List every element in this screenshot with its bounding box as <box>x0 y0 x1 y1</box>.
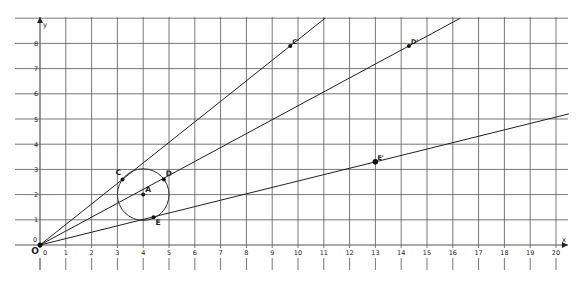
x-tick-label: 4 <box>141 249 145 257</box>
x-tick-label: 13 <box>371 249 379 257</box>
x-tick-label: 1 <box>64 249 68 257</box>
y-tick-label: 7 <box>34 65 38 73</box>
y-tick-label: 5 <box>34 116 38 124</box>
x-tick-label: 16 <box>449 249 457 257</box>
y-tick-label: 1 <box>34 216 38 224</box>
x-tick-label: 3 <box>115 249 119 257</box>
x-tick-label: 12 <box>345 249 353 257</box>
x-axis-label: x <box>562 236 566 244</box>
x-tick-label: 7 <box>219 249 223 257</box>
y-tick-label: 2 <box>34 191 38 199</box>
y-tick-label: 6 <box>34 90 38 98</box>
x-tick-label: 6 <box>193 249 197 257</box>
point-label: A <box>145 185 151 194</box>
line-OD <box>40 18 460 245</box>
x-tick-label: 14 <box>397 249 405 257</box>
x-tick-label: 18 <box>500 249 508 257</box>
x-tick-label: 15 <box>423 249 431 257</box>
origin-label: O <box>31 246 39 256</box>
y-tick-label: 8 <box>34 40 38 48</box>
line-OC <box>40 18 325 245</box>
x-tick-label: 17 <box>474 249 482 257</box>
x-tick-label: 20 <box>552 249 560 257</box>
x-tick-label: 8 <box>244 249 248 257</box>
line-OE <box>40 114 569 245</box>
point-label: E' <box>377 154 383 162</box>
y-tick-label: 0 <box>33 236 37 244</box>
tick-label-band <box>15 248 568 258</box>
point-label: D <box>166 169 172 178</box>
x-tick-label: 19 <box>526 249 534 257</box>
x-tick-label: 2 <box>90 249 94 257</box>
y-tick-label: 4 <box>34 141 38 149</box>
coordinate-diagram: 0123456789101112131415161718192001234567… <box>0 0 585 282</box>
point-label: D' <box>411 38 418 46</box>
point-label: C' <box>292 38 299 46</box>
y-label-band <box>25 15 47 245</box>
x-tick-label: 0 <box>43 249 47 257</box>
x-tick-label: 5 <box>167 249 171 257</box>
point-C <box>121 177 125 181</box>
point-label: C <box>116 168 122 177</box>
y-axis-label: y <box>43 21 47 29</box>
point-label: E <box>156 218 161 227</box>
y-tick-label: 3 <box>34 166 38 174</box>
x-tick-label: 10 <box>294 249 302 257</box>
x-tick-label: 11 <box>320 249 328 257</box>
x-tick-label: 9 <box>270 249 274 257</box>
origin-point <box>38 243 43 248</box>
